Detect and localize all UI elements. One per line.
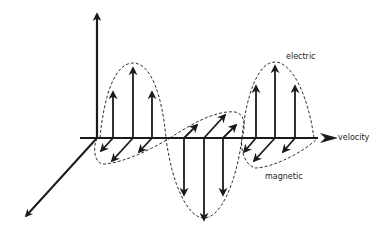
- em-wave-diagram: electric magnetic velocity: [0, 0, 383, 235]
- magnetic-envelope: [95, 112, 318, 168]
- diagonal-axis: [26, 138, 97, 216]
- velocity-label: velocity: [338, 133, 369, 142]
- electric-vectors: [113, 66, 295, 220]
- electric-label: electric: [286, 52, 316, 61]
- diagram-svg: [0, 0, 383, 235]
- velocity-arrow-icon: [320, 133, 338, 143]
- magnetic-label: magnetic: [265, 172, 303, 181]
